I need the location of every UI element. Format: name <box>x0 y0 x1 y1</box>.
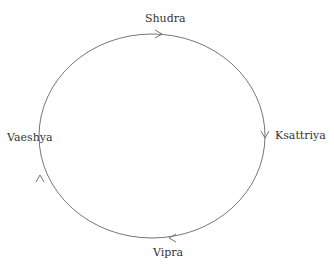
node-left-label: Vaeshya <box>7 131 53 144</box>
node-right-label: Ksattriya <box>275 129 326 142</box>
node-bottom-label: Vipra <box>153 246 183 259</box>
arrow-bottom-icon <box>169 234 176 242</box>
node-top-label: Shudra <box>145 12 186 25</box>
cycle-circle <box>39 34 265 238</box>
arrow-left-icon <box>36 175 44 182</box>
